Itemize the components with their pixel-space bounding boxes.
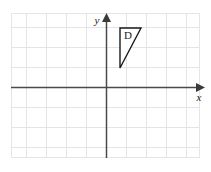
plot-frame bbox=[12, 14, 200, 158]
x-axis-label: x bbox=[196, 91, 202, 103]
coordinate-plane-svg: y x D bbox=[0, 0, 211, 172]
triangle-D-label: D bbox=[124, 29, 132, 41]
y-axis-label: y bbox=[94, 14, 100, 26]
coordinate-plane-figure: y x D bbox=[0, 0, 211, 172]
